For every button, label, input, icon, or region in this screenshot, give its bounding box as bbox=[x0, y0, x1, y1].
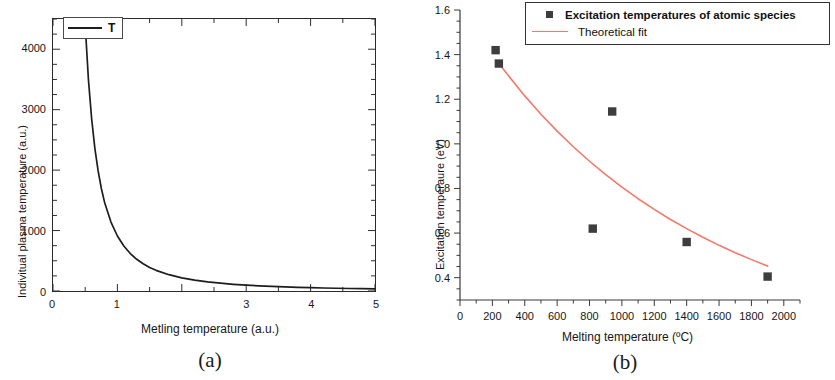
panel-b-data-svg bbox=[460, 10, 800, 300]
legend-row-series[interactable]: Excitation temperatures of atomic specie… bbox=[532, 6, 823, 23]
panel-b-x-tick-1400: 1400 bbox=[674, 310, 698, 322]
panel-b-y-tick-1.6: 1.6 bbox=[420, 4, 450, 16]
panel-a-x-tick-0: 0 bbox=[49, 298, 55, 310]
panel-a-x-tick-1: 1 bbox=[114, 298, 120, 310]
legend-label-theoretical-fit: Theoretical fit bbox=[578, 26, 647, 38]
panel-a-x-axis-title: Metling temperature (a.u.) bbox=[0, 322, 420, 336]
panel-b: Excitation temperaure (eV) Excitation te… bbox=[420, 0, 835, 380]
panel-a-y-tick-1000: 1000 bbox=[8, 225, 46, 237]
panel-a-y-tick-0: 0 bbox=[8, 286, 46, 298]
panel-b-y-axis-title: Excitation temperaure (eV) bbox=[434, 139, 446, 270]
panel-b-x-tick-2000: 2000 bbox=[772, 310, 796, 322]
panel-b-x-tick-1800: 1800 bbox=[739, 310, 763, 322]
panel-a-y-tick-3000: 3000 bbox=[8, 103, 46, 115]
panel-b-x-tick-400: 400 bbox=[516, 310, 534, 322]
panel-b-plot-area bbox=[460, 10, 800, 300]
legend-row-fit[interactable]: Theoretical fit bbox=[532, 23, 823, 40]
figure-container: Indivitual plasma temperature (a.u.) T 0… bbox=[0, 0, 835, 380]
legend-line-swatch-t bbox=[68, 27, 102, 29]
panel-b-x-axis-title: Melting temperature (ºC) bbox=[420, 330, 835, 344]
panel-b-legend[interactable]: Excitation temperatures of atomic specie… bbox=[525, 2, 830, 45]
panel-b-x-tick-1000: 1000 bbox=[610, 310, 634, 322]
panel-a-y-axis-title: Indivitual plasma temperature (a.u.) bbox=[16, 125, 28, 298]
panel-a-x-tick-3: 3 bbox=[243, 298, 249, 310]
panel-b-caption: (b) bbox=[613, 350, 638, 375]
legend-label-excitation-temperatures: Excitation temperatures of atomic specie… bbox=[565, 9, 796, 21]
panel-a-curve-svg bbox=[53, 19, 375, 291]
legend-square-marker bbox=[546, 11, 553, 18]
legend-line-swatch-fit bbox=[532, 31, 568, 32]
panel-b-y-tick-0.4: 0.4 bbox=[420, 272, 450, 284]
panel-b-y-tick-1.2: 1.2 bbox=[420, 93, 450, 105]
panel-a: Indivitual plasma temperature (a.u.) T 0… bbox=[0, 0, 420, 380]
panel-b-x-tick-1600: 1600 bbox=[707, 310, 731, 322]
panel-a-legend[interactable]: T bbox=[63, 17, 123, 39]
panel-b-x-tick-0: 0 bbox=[457, 310, 463, 322]
panel-b-y-tick-0.6: 0.6 bbox=[420, 227, 450, 239]
panel-b-y-tick-0.8: 0.8 bbox=[420, 182, 450, 194]
panel-b-x-tick-800: 800 bbox=[580, 310, 598, 322]
panel-a-x-tick-4: 4 bbox=[308, 298, 314, 310]
panel-a-plot-area: T bbox=[52, 18, 376, 292]
panel-a-y-tick-2000: 2000 bbox=[8, 164, 46, 176]
panel-a-x-tick-5: 5 bbox=[373, 298, 379, 310]
panel-a-caption: (a) bbox=[198, 348, 221, 373]
panel-b-y-tick-1.0: 1.0 bbox=[420, 138, 450, 150]
panel-b-x-tick-200: 200 bbox=[483, 310, 501, 322]
panel-b-x-tick-600: 600 bbox=[548, 310, 566, 322]
panel-b-x-tick-1200: 1200 bbox=[642, 310, 666, 322]
panel-b-y-tick-1.4: 1.4 bbox=[420, 49, 450, 61]
panel-a-y-tick-4000: 4000 bbox=[8, 42, 46, 54]
legend-label-t: T bbox=[108, 22, 115, 34]
